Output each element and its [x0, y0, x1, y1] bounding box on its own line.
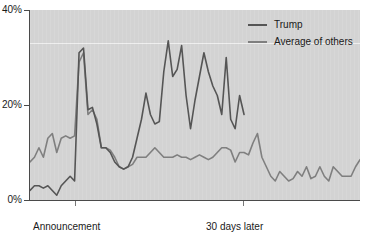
line-chart: 40% 20% 0% Announcement of candidacy 30 … [0, 0, 367, 237]
y-tick-40 [24, 10, 29, 11]
legend-label-trump: Trump [274, 19, 303, 30]
legend: Trump Average of others [248, 16, 353, 50]
legend-item-trump[interactable]: Trump [248, 16, 353, 33]
x-axis-label-announcement-line1: Announcement [33, 221, 100, 232]
legend-item-average-of-others[interactable]: Average of others [248, 33, 353, 50]
y-axis-line [29, 10, 30, 200]
legend-swatch-average-of-others [248, 41, 267, 43]
x-tick-30-days-later [243, 201, 244, 206]
x-axis-label-30-days-later: 30 days later [206, 209, 316, 233]
x-axis-line [29, 200, 360, 201]
x-axis-label-30-days-later-text: 30 days later [206, 221, 263, 232]
y-axis-label-40: 40% [0, 5, 22, 15]
x-tick-announcement [75, 201, 76, 206]
y-axis-label-0: 0% [0, 195, 22, 205]
y-tick-20 [24, 105, 29, 106]
series-line-trump [30, 41, 244, 195]
y-axis-label-20: 20% [0, 100, 22, 110]
legend-swatch-trump [248, 24, 267, 26]
legend-label-average-of-others: Average of others [274, 36, 353, 47]
series-line-average-of-others [30, 53, 360, 181]
x-axis-label-announcement: Announcement of candidacy [33, 209, 153, 237]
y-tick-0 [24, 200, 29, 201]
